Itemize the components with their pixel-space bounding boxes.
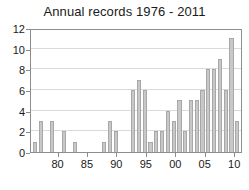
bar (108, 121, 112, 152)
x-tick-mark-00 (175, 153, 176, 157)
bar (33, 142, 37, 152)
bar (229, 38, 233, 152)
bar (102, 142, 106, 152)
y-tick-label-2: 2 (19, 127, 25, 138)
bar (114, 131, 118, 152)
y-axis: 024681012 (0, 29, 30, 153)
bar (62, 131, 66, 152)
x-tick-label-05: 05 (199, 159, 211, 170)
bar (212, 69, 216, 152)
y-tick-label-12: 12 (13, 24, 25, 35)
y-tick-label-8: 8 (19, 65, 25, 76)
bar (218, 59, 222, 152)
x-tick-mark-80 (58, 153, 59, 157)
chart-figure: Annual records 1976 - 2011 024681012 808… (0, 0, 249, 190)
x-tick-mark-90 (116, 153, 117, 157)
x-tick-mark-85 (87, 153, 88, 157)
bar (143, 90, 147, 152)
bar (166, 111, 170, 152)
bar (131, 90, 135, 152)
bar-slot (234, 30, 240, 152)
bar (160, 131, 164, 152)
bar (154, 131, 158, 152)
bar-series (31, 30, 241, 152)
x-tick-mark-95 (146, 153, 147, 157)
x-tick-label-80: 80 (51, 159, 63, 170)
y-tick-label-4: 4 (19, 106, 25, 117)
y-tick-label-6: 6 (19, 86, 25, 97)
plot-area (30, 29, 242, 153)
bar (137, 80, 141, 152)
bar (200, 90, 204, 152)
bar (206, 69, 210, 152)
chart-title: Annual records 1976 - 2011 (0, 4, 249, 19)
y-tick-label-0: 0 (19, 148, 25, 159)
bar (195, 100, 199, 152)
x-tick-mark-05 (205, 153, 206, 157)
x-tick-label-95: 95 (140, 159, 152, 170)
bar (189, 100, 193, 152)
bar (183, 131, 187, 152)
x-tick-label-85: 85 (81, 159, 93, 170)
bar (148, 142, 152, 152)
bar (73, 142, 77, 152)
bar (39, 121, 43, 152)
x-tick-label-10: 10 (228, 159, 240, 170)
x-tick-label-00: 00 (169, 159, 181, 170)
x-axis: 80859095000510 (30, 153, 242, 183)
bar (224, 90, 228, 152)
bar (177, 100, 181, 152)
y-tick-label-10: 10 (13, 44, 25, 55)
x-tick-mark-10 (234, 153, 235, 157)
bar (50, 121, 54, 152)
x-tick-label-90: 90 (110, 159, 122, 170)
bar (235, 121, 239, 152)
bar (172, 121, 176, 152)
